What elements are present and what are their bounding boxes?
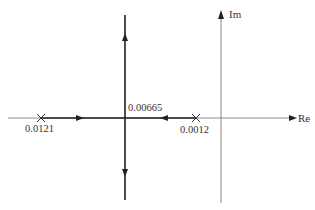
imag-axis-arrow-icon [218, 10, 224, 19]
real-axis-arrow-icon [289, 115, 297, 121]
arrow-down-icon [122, 169, 128, 177]
breakaway-label: 0.00665 [128, 103, 162, 114]
real-axis-label: Re [298, 113, 310, 124]
arrow-up-icon [122, 33, 128, 41]
imag-axis-label: Im [229, 9, 241, 20]
arrow-right-icon [76, 115, 84, 121]
pole-label-0012: 0.0012 [180, 125, 209, 136]
pole-label-0121: 0.0121 [25, 124, 54, 135]
arrow-left-icon [160, 115, 168, 121]
